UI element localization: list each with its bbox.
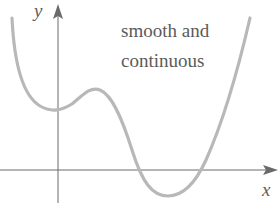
function-graph-diagram: y x smooth and continuous [0,0,278,223]
caption-line-2: continuous [121,46,204,76]
caption-line-1: smooth and [121,16,209,46]
x-axis-label: x [262,179,270,201]
y-axis-label: y [34,0,42,22]
